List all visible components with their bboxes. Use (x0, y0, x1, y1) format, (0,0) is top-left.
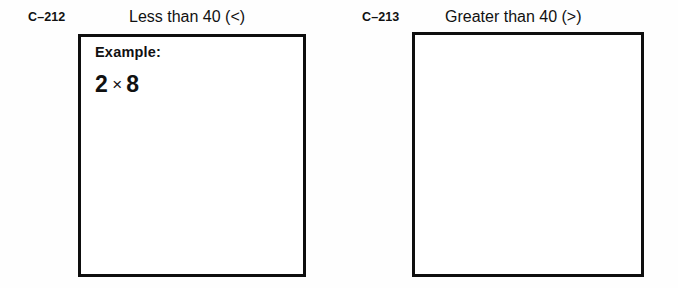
operand-left: 2 (95, 71, 108, 97)
answer-box-c-212[interactable]: Example: 2×8 (78, 34, 306, 277)
example-expression: 2×8 (95, 73, 161, 96)
panel-title-label: Less than 40 (<) (129, 8, 245, 26)
example-block: Example: 2×8 (95, 45, 161, 96)
panel-code-label: C–213 (362, 10, 399, 24)
panel-header-c-212: C–212 Less than 40 (<) (0, 8, 340, 30)
multiplication-icon: × (108, 75, 126, 94)
panel-c-212: C–212 Less than 40 (<) Example: 2×8 (0, 0, 340, 288)
example-label: Example: (95, 45, 161, 60)
panel-header-c-213: C–213 Greater than 40 (>) (340, 8, 678, 30)
panel-code-label: C–212 (28, 10, 65, 24)
panel-c-213: C–213 Greater than 40 (>) (340, 0, 678, 288)
operand-right: 8 (126, 71, 139, 97)
worksheet: C–212 Less than 40 (<) Example: 2×8 C–21… (0, 0, 678, 288)
answer-box-c-213[interactable] (412, 32, 644, 277)
panel-title-label: Greater than 40 (>) (445, 8, 582, 26)
